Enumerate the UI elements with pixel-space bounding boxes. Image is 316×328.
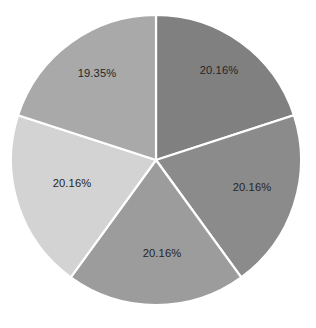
pie-chart-container: 20.16% 20.16% 20.16% 20.16% 19.35% — [0, 0, 316, 328]
pie-slice-label-top-left: 19.35% — [78, 67, 117, 79]
pie-slices-group — [11, 15, 301, 305]
pie-slice-label-left: 20.16% — [53, 177, 92, 189]
pie-slice-label-right: 20.16% — [233, 181, 272, 193]
pie-chart-svg: 20.16% 20.16% 20.16% 20.16% 19.35% — [0, 0, 316, 328]
pie-slice-label-bottom: 20.16% — [143, 247, 182, 259]
pie-slice-label-top-right: 20.16% — [200, 64, 239, 76]
